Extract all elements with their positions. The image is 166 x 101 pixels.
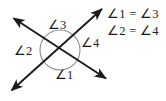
equation-angle1-equals-angle3: ∠1 = ∠3 xyxy=(107,6,159,22)
angle-label-4: ∠4 xyxy=(81,36,100,50)
intersection-circle xyxy=(40,30,80,70)
angle-label-1: ∠1 xyxy=(55,68,73,82)
angle-label-2: ∠2 xyxy=(14,44,32,58)
geometry-figure: ∠3 ∠2 ∠4 ∠1 ∠1 = ∠3 ∠2 = ∠4 xyxy=(0,0,166,101)
equation-angle2-equals-angle4: ∠2 = ∠4 xyxy=(107,23,159,39)
angle-label-3: ∠3 xyxy=(48,18,66,32)
